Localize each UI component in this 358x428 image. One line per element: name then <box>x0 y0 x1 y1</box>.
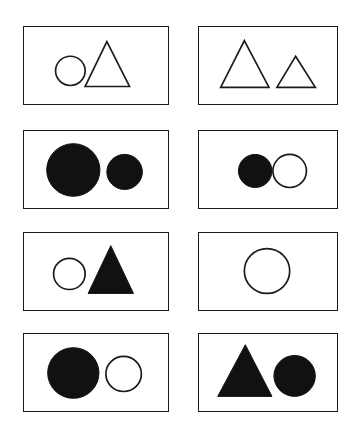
panel-8-canvas <box>199 334 337 411</box>
panel-5 <box>23 232 169 311</box>
circle-filled-shape-2 <box>107 154 143 189</box>
circle-outline-shape-1 <box>244 249 289 294</box>
panel-4 <box>198 130 338 209</box>
triangle-filled-shape-1 <box>218 345 272 397</box>
panel-1 <box>23 26 169 105</box>
panel-7 <box>23 333 169 412</box>
panel-2 <box>198 26 338 105</box>
circle-filled-shape-1 <box>47 144 100 197</box>
triangle-outline-shape-1 <box>221 41 269 88</box>
panel-3 <box>23 130 169 209</box>
circle-outline-shape-2 <box>106 356 142 391</box>
circle-filled-shape-1 <box>238 154 272 187</box>
circle-outline-shape-1 <box>54 258 86 289</box>
panel-1-canvas <box>24 27 168 104</box>
figure-root <box>0 0 358 428</box>
panel-3-canvas <box>24 131 168 208</box>
panel-5-canvas <box>24 233 168 310</box>
panel-4-canvas <box>199 131 337 208</box>
panel-8 <box>198 333 338 412</box>
panel-6 <box>198 232 338 311</box>
triangle-filled-shape-2 <box>88 246 133 294</box>
triangle-outline-shape-2 <box>277 56 315 87</box>
panel-6-canvas <box>199 233 337 310</box>
panel-7-canvas <box>24 334 168 411</box>
panel-2-canvas <box>199 27 337 104</box>
circle-outline-shape-2 <box>273 154 307 187</box>
triangle-outline-shape-2 <box>85 42 129 87</box>
circle-filled-shape-1 <box>48 348 99 399</box>
circle-outline-shape-1 <box>56 56 86 85</box>
circle-filled-shape-2 <box>274 355 315 396</box>
